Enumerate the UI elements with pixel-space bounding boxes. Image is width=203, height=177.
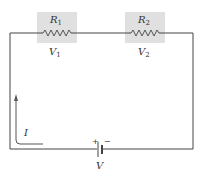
v2-label: V2	[138, 47, 150, 59]
r1-label: R1	[50, 15, 62, 27]
r2-label-text: R	[138, 14, 146, 25]
current-arrowhead-icon	[14, 94, 18, 101]
v1-label-sub: 1	[56, 51, 60, 59]
circuit-diagram	[0, 0, 203, 177]
current-arrow-icon	[16, 100, 43, 144]
v1-label: V1	[49, 47, 61, 59]
battery-plus-sign: +	[92, 138, 99, 146]
v2-label-sub: 2	[145, 51, 149, 59]
wires	[10, 33, 193, 149]
battery-voltage-label: V	[96, 161, 103, 171]
battery-minus-sign: −	[104, 138, 111, 146]
r2-label: R2	[138, 15, 150, 27]
r2-label-sub: 2	[146, 19, 150, 27]
r1-label-sub: 1	[58, 19, 62, 27]
current-label: I	[24, 128, 28, 138]
r1-label-text: R	[50, 14, 58, 25]
